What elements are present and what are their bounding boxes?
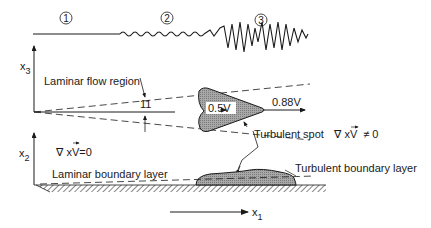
spot-envelope-upper bbox=[34, 84, 310, 112]
turbulent-spot-side bbox=[196, 169, 296, 185]
stage-markers: 1 2 3 bbox=[60, 12, 267, 26]
x1-axis-label: x1 bbox=[252, 206, 263, 222]
stage-marker-3: 3 bbox=[258, 15, 264, 26]
flat-plate bbox=[36, 185, 326, 192]
stage-marker-1: 1 bbox=[63, 13, 69, 24]
front-speed-label: 0.88V bbox=[272, 96, 301, 108]
angle-arrow-top bbox=[140, 78, 145, 97]
rear-speed-label: 0.5V bbox=[208, 102, 231, 114]
leader-arrow-up bbox=[244, 122, 247, 127]
stage-marker-2: 2 bbox=[164, 13, 170, 24]
spot-leader-line bbox=[237, 131, 258, 172]
curl-nonzero-label: ∇ xV≠ 0 bbox=[333, 128, 378, 140]
x3-axis-label: x3 bbox=[20, 60, 31, 76]
laminar-flow-region-label: Laminar flow region bbox=[44, 75, 140, 87]
turbulent-spot-diagram: 1 2 3 x3 Laminar flow region 11 0.5V 0.8… bbox=[0, 0, 431, 228]
laminar-boundary-layer-label: Laminar boundary layer bbox=[52, 168, 168, 180]
turbulent-boundary-layer-label: Turbulent boundary layer bbox=[295, 162, 417, 174]
velocity-signal-trace bbox=[33, 22, 308, 52]
side-view: x2 ∇ xV=0 Laminar boundary layer Turbule… bbox=[19, 133, 417, 222]
turbulent-spot-label: Turbulent spot bbox=[254, 128, 324, 140]
x2-axis-label: x2 bbox=[19, 147, 30, 163]
spread-angle-label: 11 bbox=[140, 98, 151, 110]
curl-zero-label: ∇ xV=0 bbox=[55, 146, 92, 158]
